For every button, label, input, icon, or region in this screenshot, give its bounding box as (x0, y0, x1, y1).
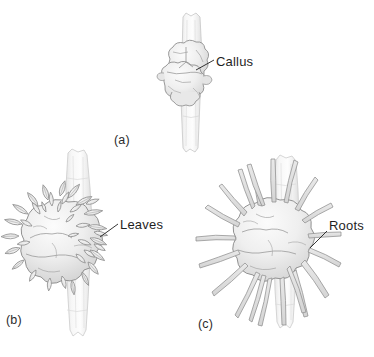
panel-label-c: (c) (198, 317, 213, 331)
panel-label-b: (b) (6, 313, 22, 327)
panel-b-illustration (1, 149, 118, 336)
callus-mass-a (157, 40, 212, 106)
leaves-leader-line (100, 224, 118, 237)
callus-label: Callus (216, 54, 253, 69)
panel-label-a: (a) (114, 133, 130, 147)
tissue-culture-figure (0, 0, 374, 357)
roots-label: Roots (329, 218, 364, 233)
panel-a-illustration (157, 13, 214, 152)
leaves-label: Leaves (120, 217, 163, 232)
panel-c-illustration (196, 155, 341, 328)
